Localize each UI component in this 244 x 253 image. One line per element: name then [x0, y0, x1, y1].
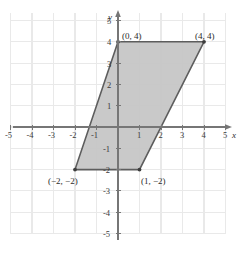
y-tick-label-2: 2 — [107, 81, 111, 90]
x-tick-label--4: -4 — [27, 131, 34, 140]
x-axis-arrowhead — [225, 124, 232, 130]
x-tick-label-1: 1 — [137, 131, 141, 140]
x-axis-label: x — [232, 131, 236, 140]
x-tick-label--2: -2 — [70, 131, 77, 140]
y-tick-label--1: -1 — [103, 145, 110, 154]
x-tick-label-2: 2 — [159, 131, 163, 140]
x-tick-label-3: 3 — [180, 131, 184, 140]
vertex-point--2--2 — [73, 168, 77, 172]
vertex-label-0-4: (0, 4) — [122, 32, 142, 41]
x-tick-label-4: 4 — [202, 131, 206, 140]
y-tick-label--5: -5 — [103, 230, 110, 239]
y-tick-label-4: 4 — [107, 38, 111, 47]
vertex-label--2--2: (−2, −2) — [48, 177, 78, 186]
coordinate-plane-figure: -5 -4 -3 -2 -1 1 2 3 4 5 5 4 3 2 1 -1 -2… — [0, 0, 244, 253]
y-tick-label--3: -3 — [103, 187, 110, 196]
x-tick-label-5: 5 — [223, 131, 227, 140]
x-tick-label--1: -1 — [91, 131, 98, 140]
x-tick-label--3: -3 — [48, 131, 55, 140]
vertex-label-1--2: (1, −2) — [141, 177, 166, 186]
y-axis-arrowhead — [115, 10, 121, 17]
y-axis-label: y — [108, 13, 112, 22]
y-tick-label-3: 3 — [107, 60, 111, 69]
y-tick-label-1: 1 — [107, 102, 111, 111]
y-tick-label--4: -4 — [103, 209, 110, 218]
vertex-point-1--2 — [138, 168, 142, 172]
vertex-label-4-4: (4, 4) — [195, 32, 215, 41]
x-tick-label--5: -5 — [5, 131, 12, 140]
y-tick-label--2: -2 — [103, 166, 110, 175]
